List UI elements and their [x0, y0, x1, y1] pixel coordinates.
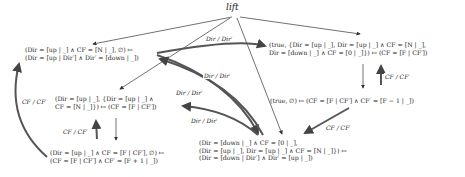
- edge-label-n5-n1: CF / CF′: [21, 98, 48, 105]
- node-n1-line-2: (Dir = [up | Dir′] ∧ Dir′ = [down | _]): [25, 54, 139, 62]
- edge-lift-n2: [240, 17, 360, 34]
- edge-label-n6-n1: Dir / Dir′: [175, 89, 203, 96]
- root-node-lift: lift: [226, 2, 239, 12]
- edge-n5-n1: [16, 64, 48, 157]
- edge-label-n4-n6: CF / CF′: [325, 124, 352, 131]
- node-n4: (true, ∅) ↦ (CF = [F | CF′] ∧ CF′ = [F −…: [270, 97, 414, 105]
- node-n5-line-2: (CF = [F | CF′] ∧ CF′ = [F + 1 | _]): [50, 157, 164, 165]
- node-n6: (Dir = [down | _] ∧ CF = [0 | _], (Dir =…: [199, 139, 347, 162]
- edge-label-n5-n3: CF / CF′: [62, 128, 89, 135]
- edge-label-n1-n2: Dir / Dir′: [205, 35, 233, 42]
- node-n1-line-1: (Dir = [up | _] ∧ CF = [N | _], ∅) ↦: [25, 46, 139, 54]
- node-n3-line-1: (Dir = [up | _], {Dir = [up | _] ∧: [55, 95, 157, 103]
- node-n5: (Dir = [up | _] ∧ CF = [F | CF′], ∅) ↦ (…: [50, 149, 164, 164]
- node-n4-line-1: (true, ∅) ↦ (CF = [F | CF′] ∧ CF′ = [F −…: [270, 97, 414, 105]
- node-n2: (true, {Dir = [up | _], Dir = [up | _] ∧…: [269, 41, 427, 56]
- node-n3: (Dir = [up | _], {Dir = [up | _] ∧ CF = …: [55, 95, 157, 110]
- edge-label-n6-n3: Dir / Dir′: [190, 117, 218, 124]
- edge-label-n4-n2: CF / CF′: [384, 73, 411, 80]
- node-n2-line-2: Dir = [down | _] ∧ CF = [0 | _]}) ↦ (CF …: [269, 49, 427, 57]
- node-n6-line-1: (Dir = [down | _] ∧ CF = [0 | _],: [199, 139, 347, 147]
- node-n6-line-2: (Dir = [up | _], Dir = [up | _] ∧ CF = […: [199, 147, 347, 155]
- node-n6-line-3: (Dir = [down | Dir′] ∧ Dir′ = [up | _]): [199, 154, 347, 162]
- edge-n5-n3: [96, 121, 97, 139]
- node-n1: (Dir = [up | _] ∧ CF = [N | _], ∅) ↦ (Di…: [25, 46, 139, 61]
- node-n2-line-1: (true, {Dir = [up | _], Dir = [up | _] ∧…: [269, 41, 427, 49]
- edge-lift-n6: [237, 18, 282, 134]
- node-n3-line-2: CF = [N | _]}) ↦ (CF = [F | CF′]): [55, 103, 157, 111]
- node-n5-line-1: (Dir = [up | _] ∧ CF = [F | CF′], ∅) ↦: [50, 149, 164, 157]
- edge-label-n1-n6: Dir / Dir′: [203, 72, 231, 79]
